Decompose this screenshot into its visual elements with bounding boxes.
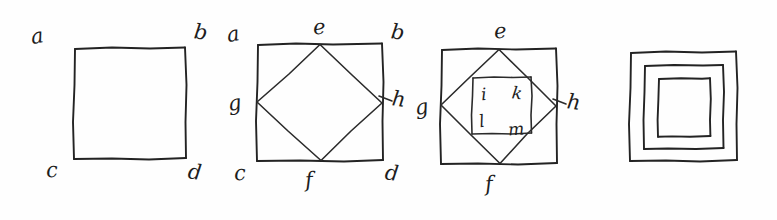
label-fig2-h: h	[391, 88, 407, 110]
label-fig1-b: b	[193, 21, 209, 43]
label-fig3-f: f	[484, 174, 493, 195]
figure-1-strokes	[73, 48, 187, 160]
label-fig2-f: f	[304, 170, 313, 191]
label-fig2-b: b	[390, 21, 406, 43]
figure-2-strokes	[256, 44, 384, 162]
figure-3-strokes	[440, 49, 558, 165]
figure-4-strokes	[629, 52, 738, 162]
label-fig3-i: i	[480, 86, 487, 103]
drawing-sheet: a b c d a b c d e f g h e f g h i k l m	[0, 0, 777, 220]
label-fig3-m: m	[507, 120, 524, 138]
label-fig1-d: d	[187, 161, 203, 183]
label-fig1-c: c	[45, 160, 58, 182]
label-fig2-c: c	[233, 163, 246, 185]
drawing-canvas	[0, 0, 777, 220]
label-fig3-h: h	[566, 91, 582, 113]
label-fig2-e: e	[312, 17, 326, 39]
label-fig3-k: k	[511, 84, 523, 102]
label-fig3-e: e	[493, 21, 507, 43]
label-fig2-d: d	[384, 162, 400, 184]
